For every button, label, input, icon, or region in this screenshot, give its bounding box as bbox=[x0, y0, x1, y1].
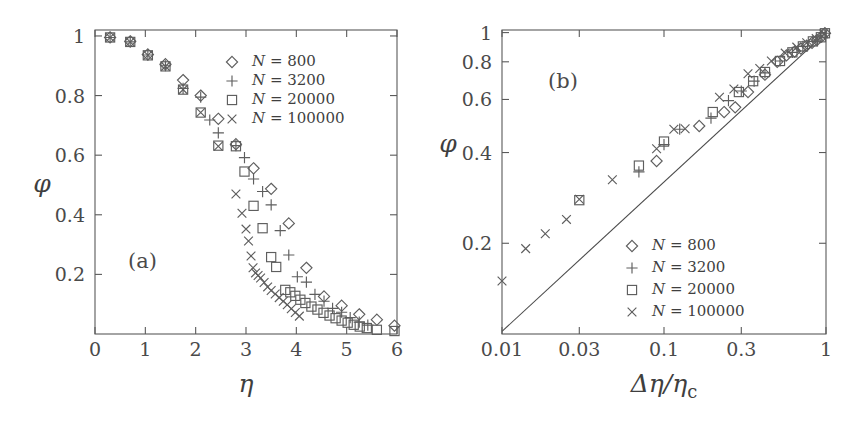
panel-a-xticklabel: 4 bbox=[290, 338, 302, 360]
panel-a-svg: 01234560.20.40.60.81φη(a)N = 800N = 3200… bbox=[0, 0, 426, 438]
panel-a-datapoint-plus bbox=[292, 271, 303, 282]
panel-a-legend-label: N = 3200 bbox=[251, 71, 325, 89]
panel-b-datapoint-diamond bbox=[651, 155, 662, 166]
panel-a-datapoint-square bbox=[307, 302, 316, 311]
panel-b-yticklabel: 0.4 bbox=[462, 142, 492, 164]
panel-b-xlabel: Δη/ηc bbox=[630, 369, 698, 402]
panel-b-legend-label: N = 3200 bbox=[651, 258, 725, 276]
panel-b-panel-label: (b) bbox=[548, 69, 578, 93]
panel-a-datapoint-diamond bbox=[213, 113, 224, 124]
panel-b-datapoint-cross bbox=[562, 215, 571, 224]
panel-a-legend-label: N = 100000 bbox=[251, 109, 345, 127]
panel-a-datapoint-square bbox=[343, 318, 352, 327]
panel-b-datapoint-plus bbox=[705, 113, 716, 124]
panel-b-xticklabel: 0.1 bbox=[649, 338, 679, 360]
panel-a-datapoint-plus bbox=[275, 225, 286, 236]
panel-a-datapoint-plus bbox=[239, 152, 250, 163]
panel-a-datapoint-square bbox=[272, 262, 281, 271]
panel-a-datapoint-diamond bbox=[371, 314, 382, 325]
panel-a-ylabel: φ bbox=[33, 169, 51, 198]
panel-a-yticklabel: 0.8 bbox=[55, 85, 85, 107]
panel-a-datapoint-cross bbox=[238, 209, 247, 218]
panel-a-datapoint-square bbox=[372, 325, 381, 334]
panel-b-ylabel: φ bbox=[439, 129, 457, 158]
panel-b-xticklabel: 0.3 bbox=[726, 338, 756, 360]
panel-b-datapoint-plus bbox=[633, 166, 644, 177]
panel-a-yticklabel: 0.6 bbox=[55, 144, 85, 166]
panel-a-legend-label: N = 800 bbox=[251, 52, 316, 70]
panel-b-datapoint-diamond bbox=[719, 106, 730, 117]
panel-a-datapoint-cross bbox=[247, 252, 256, 261]
panel-a-datapoint-plus bbox=[301, 277, 312, 288]
panel-a-panel-label: (a) bbox=[128, 249, 157, 273]
panel-a-datapoint-cross bbox=[232, 190, 241, 199]
panel-a-axes-frame bbox=[95, 30, 397, 334]
panel-b-xticklabel: 1 bbox=[820, 338, 832, 360]
panel-a-datapoint-plus bbox=[266, 199, 277, 210]
panel-b-yticklabel: 0.8 bbox=[462, 51, 492, 73]
panel-a-yticklabel: 0.2 bbox=[55, 263, 85, 285]
panel-b-datapoint-cross bbox=[541, 229, 550, 238]
panel-b-legend-label: N = 800 bbox=[651, 236, 716, 254]
panel-a-datapoint-square bbox=[331, 314, 340, 323]
panel-a-yticklabel: 0.4 bbox=[55, 204, 85, 226]
panel-b-legend-marker-square bbox=[627, 285, 636, 294]
panel-b-yticklabel: 0.2 bbox=[462, 232, 492, 254]
panel-a-xticklabel: 6 bbox=[391, 338, 403, 360]
panel-a-datapoint-plus bbox=[213, 127, 224, 138]
panel-a-datapoint-square bbox=[319, 308, 328, 317]
panel-b-datapoint-cross bbox=[715, 93, 724, 102]
panel-b-xticklabel: 0.01 bbox=[481, 338, 523, 360]
chart-panel-b: 0.010.030.10.310.20.40.60.81φΔη/ηc(b)N =… bbox=[426, 0, 851, 438]
panel-b-datapoint-cross bbox=[521, 244, 530, 253]
panel-a-xlabel: η bbox=[239, 369, 254, 398]
panel-a-datapoint-square bbox=[258, 224, 267, 233]
panel-b-xticklabel: 0.03 bbox=[558, 338, 600, 360]
panel-a-legend-marker-square bbox=[227, 95, 236, 104]
panel-a-datapoint-diamond bbox=[301, 262, 312, 273]
panel-b-datapoint-diamond bbox=[742, 86, 753, 97]
panel-a-xticklabel: 3 bbox=[240, 338, 252, 360]
panel-b-legend-label: N = 100000 bbox=[651, 302, 745, 320]
panel-b-datapoint-square bbox=[575, 196, 584, 205]
panel-b-datapoint-cross bbox=[608, 175, 617, 184]
panel-a-xticklabel: 2 bbox=[190, 338, 202, 360]
panel-a-legend-label: N = 20000 bbox=[251, 90, 335, 108]
panel-a-datapoint-diamond bbox=[266, 183, 277, 194]
panel-b-datapoint-square bbox=[708, 107, 717, 116]
panel-b-datapoint-cross bbox=[652, 144, 661, 153]
panel-a-datapoint-cross bbox=[214, 142, 223, 151]
panel-a-xticklabel: 0 bbox=[89, 338, 101, 360]
panel-a-datapoint-cross bbox=[242, 225, 251, 234]
panel-a-legend: N = 800N = 3200N = 20000N = 100000 bbox=[226, 52, 344, 127]
panel-a-datapoint-diamond bbox=[389, 320, 400, 331]
panel-a-datapoint-square bbox=[313, 305, 322, 314]
panel-a-yticklabel: 1 bbox=[73, 25, 85, 47]
panel-b-legend: N = 800N = 3200N = 20000N = 100000 bbox=[626, 236, 744, 320]
panel-a-series-1 bbox=[105, 32, 374, 331]
panel-b-yticklabel: 1 bbox=[480, 22, 492, 44]
panel-b-datapoint-diamond bbox=[730, 102, 741, 113]
panel-b-legend-marker-cross bbox=[628, 308, 637, 317]
panel-a-datapoint-square bbox=[267, 253, 276, 262]
panel-b-legend-label: N = 20000 bbox=[651, 280, 735, 298]
chart-panel-a: 01234560.20.40.60.81φη(a)N = 800N = 3200… bbox=[0, 0, 426, 438]
panel-a-datapoint-cross bbox=[244, 237, 253, 246]
panel-a-legend-marker-diamond bbox=[226, 56, 237, 67]
panel-b-datapoint-plus bbox=[674, 124, 685, 135]
panel-b-datapoint-cross bbox=[575, 195, 584, 204]
panel-a-datapoint-plus bbox=[283, 249, 294, 260]
panel-a-legend-marker-plus bbox=[226, 75, 237, 86]
panel-b-datapoint-diamond bbox=[694, 120, 705, 131]
panel-a-datapoint-diamond bbox=[283, 218, 294, 229]
panel-a-datapoint-square bbox=[249, 201, 258, 210]
panel-a-datapoint-cross bbox=[295, 312, 304, 321]
panel-b-legend-marker-diamond bbox=[626, 240, 637, 251]
panel-a-xticklabel: 5 bbox=[341, 338, 353, 360]
panel-a-legend-marker-cross bbox=[228, 115, 237, 124]
panel-b-legend-marker-plus bbox=[626, 262, 637, 273]
panel-b-datapoint-cross bbox=[755, 64, 764, 73]
panel-b-yticklabel: 0.6 bbox=[462, 88, 492, 110]
figure-root: 01234560.20.40.60.81φη(a)N = 800N = 3200… bbox=[0, 0, 851, 438]
panel-b-series-1 bbox=[633, 28, 830, 178]
